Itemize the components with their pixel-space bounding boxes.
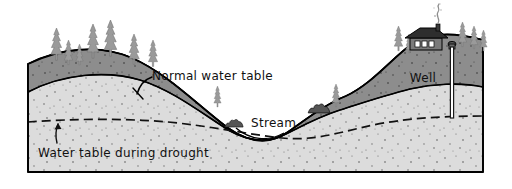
house-roof (405, 28, 448, 38)
well-label: Well (410, 71, 436, 85)
stream-label: Stream (251, 116, 296, 130)
house-window (415, 41, 420, 47)
diagram-canvas: Normal water table Stream Water table du… (0, 0, 512, 189)
chimney (436, 24, 440, 31)
house-window (422, 41, 427, 47)
house-window (429, 41, 434, 47)
shrub-icon (225, 120, 243, 128)
normal-water-table-label: Normal water table (152, 69, 273, 83)
groundwater-cross-section: Normal water table Stream Water table du… (0, 0, 512, 189)
chimney-smoke (433, 3, 442, 23)
conifer-icon (148, 40, 157, 67)
house-group (405, 3, 448, 50)
conifer-icon (394, 26, 403, 51)
conifer-icon (214, 86, 221, 107)
mid-valley-tree-group (214, 84, 340, 107)
well-pipe (450, 47, 453, 118)
drought-water-table-label: Water table during drought (38, 146, 209, 160)
